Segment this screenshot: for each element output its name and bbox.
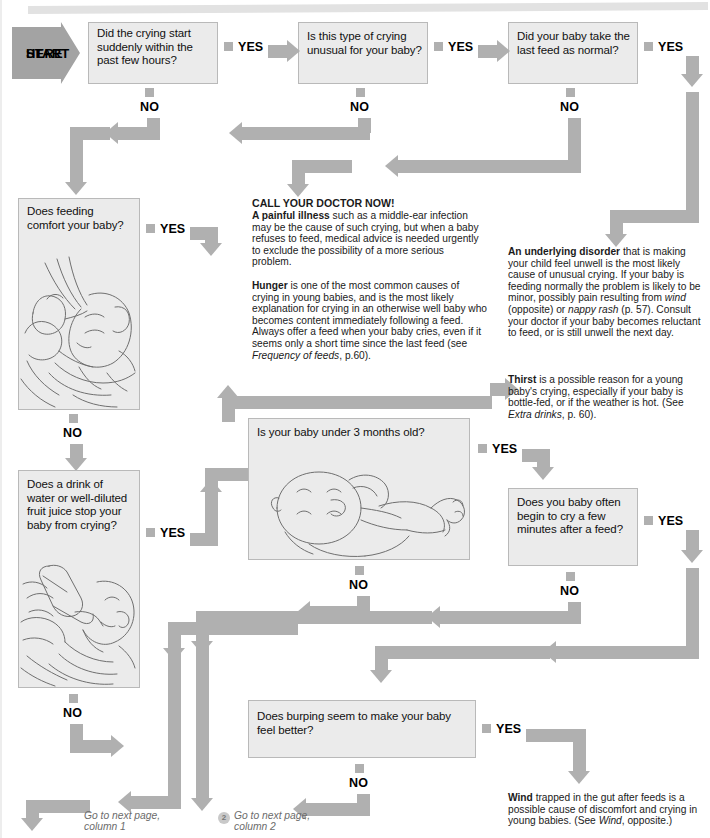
yes-arrow-2-shaft	[478, 45, 498, 58]
disorder-italic-1: wind	[665, 292, 686, 303]
yes-arrow-8-seg2	[573, 729, 586, 775]
no-bullet-8	[355, 764, 364, 773]
no-bullet-2	[356, 88, 365, 97]
thirst-feed-horizontal	[222, 396, 492, 409]
no-arrow-1-head2	[65, 182, 87, 195]
yes-label-4: YES	[160, 222, 185, 236]
yes-bullet-2	[434, 42, 443, 51]
no-arrow-1-seg2	[118, 127, 160, 140]
hunger-paragraph: Hunger is one of the most common causes …	[252, 280, 488, 361]
question-text-5: Does a drink of water or well-diluted fr…	[27, 478, 131, 532]
yes-arrow-6-head	[532, 467, 554, 480]
question-text-4: Does feeding comfort your baby?	[27, 205, 131, 232]
yes-label-1: YES	[238, 40, 263, 54]
no-bullet-5	[69, 694, 78, 703]
wind-italic: Wind	[599, 815, 622, 826]
page-top-band	[28, 2, 708, 14]
no-arrow-3-head2	[287, 184, 309, 197]
no-bullet-4	[69, 414, 78, 423]
column1-feed-vertical	[168, 652, 181, 802]
yes-bullet-1	[224, 42, 233, 51]
no-arrow-2-seg2	[242, 127, 370, 140]
yes-bullet-3	[644, 42, 653, 51]
doctor-heading: CALL YOUR DOCTOR NOW!	[252, 198, 482, 210]
no-bullet-7	[566, 572, 575, 581]
question-text-3: Did your baby take the last feed as norm…	[517, 30, 635, 57]
no-arrow-3-seg1	[568, 118, 581, 166]
yes-arrow-7-head3	[370, 670, 392, 683]
footer-col1-text[interactable]: Go to next page,column 1	[84, 810, 204, 833]
yes-label-8: YES	[496, 722, 521, 736]
no-label-2: NO	[350, 100, 369, 114]
footer-col2-marker: 2	[218, 812, 230, 824]
yes-arrow-4-head	[200, 243, 222, 256]
no-bullet-6	[355, 566, 364, 575]
no-label-3: NO	[560, 100, 579, 114]
footer-col2-text[interactable]: Go to next page,column 2	[234, 810, 354, 833]
yes-arrow-7-seg4	[375, 646, 550, 659]
page-left-rule	[0, 0, 2, 838]
no-bullet-1	[145, 88, 154, 97]
yes-arrow-5-seg2	[205, 492, 218, 546]
no-arrow-7-seg2	[440, 611, 581, 624]
yes-label-3: YES	[658, 40, 683, 54]
no-arrow-7-seg3	[196, 611, 432, 624]
no-arrow-1-seg4	[70, 127, 110, 140]
painful-illness-paragraph: A painful illness such as a middle-ear i…	[252, 210, 484, 268]
no-bullet-3	[566, 88, 575, 97]
thirst-arrow-shaft	[490, 383, 506, 396]
yes-bullet-4	[146, 224, 155, 233]
yes-arrow-3-head1	[681, 74, 703, 87]
yes-arrow-1-head	[287, 40, 300, 62]
thirst-body-2: , p. 60).	[562, 409, 597, 420]
yes-arrow-3-seg3	[610, 210, 699, 223]
wind-lead: Wind	[508, 792, 533, 803]
no-arrow-5-seg2	[70, 740, 112, 753]
thirst-lead: Thirst	[508, 374, 536, 385]
question-text-6: Is your baby under 3 months old?	[257, 426, 427, 440]
question-text-7: Does you baby often begin to cry a few m…	[517, 496, 629, 537]
yes-arrow-7-head1	[681, 550, 703, 563]
yes-arrow-1-shaft	[268, 45, 288, 58]
wind-body-2: , opposite.)	[622, 815, 672, 826]
no-label-8: NO	[349, 776, 368, 790]
disorder-lead: An underlying disorder	[508, 246, 620, 257]
lying-baby-illustration	[249, 462, 469, 559]
underlying-disorder-paragraph: An underlying disorder that is making yo…	[508, 246, 706, 339]
no-label-6: NO	[349, 578, 368, 592]
yes-arrow-2-head	[497, 40, 510, 62]
thirst-paragraph: Thirst is a possible reason for a young …	[508, 374, 704, 420]
hunger-body-1: is one of the most common causes of cryi…	[252, 280, 487, 349]
yes-bullet-8	[482, 724, 491, 733]
question-text-1: Did the crying start suddenly within the…	[97, 27, 213, 68]
yes-label-7: YES	[658, 514, 683, 528]
hunger-lead: Hunger	[252, 280, 288, 291]
flowchart-page: STARTHERE Did the crying start suddenly …	[0, 0, 710, 838]
no-label-7: NO	[560, 584, 579, 598]
wind-paragraph: Wind trapped in the gut after feeds is a…	[508, 792, 706, 827]
disorder-italic-2: nappy rash	[568, 304, 618, 315]
question-text-8: Does burping seem to make your baby feel…	[257, 710, 463, 737]
yes-arrow-3-seg2	[686, 92, 699, 210]
hunger-body-2: , p.60).	[339, 350, 371, 361]
thirst-feed-vertical	[222, 396, 235, 422]
bottle-feeding-illustration	[19, 562, 139, 687]
yes-bullet-7	[644, 516, 653, 525]
question-text-2: Is this type of crying unusual for your …	[307, 30, 425, 57]
yes-arrow-7-seg3	[556, 646, 699, 659]
yes-label-6: YES	[492, 442, 517, 456]
no-arrow-3-seg2	[398, 160, 581, 173]
yes-bullet-5	[146, 528, 155, 537]
no-label-1: NO	[140, 100, 159, 114]
disorder-body-2: (opposite) or	[508, 304, 568, 315]
no-label-5: NO	[63, 706, 82, 720]
no-arrow-3-head1	[385, 155, 398, 177]
yes-arrow-7-seg2	[686, 568, 699, 646]
footer-arrow-col1-horiz	[26, 800, 90, 813]
painful-illness-lead: A painful illness	[252, 210, 330, 221]
hunger-italic: Frequency of feeds	[252, 350, 339, 361]
thirst-italic: Extra drinks	[508, 409, 562, 420]
yes-bullet-6	[478, 444, 487, 453]
column2-feed-vertical-b	[196, 680, 209, 802]
start-here-arrow: STARTHERE	[12, 22, 80, 84]
